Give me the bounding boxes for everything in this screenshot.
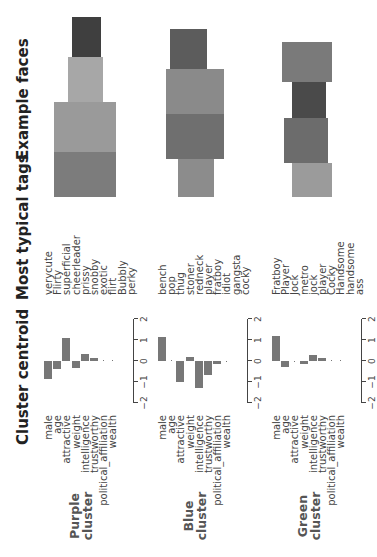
- row-label: Green cluster: [296, 485, 322, 547]
- axis-tick-label: −1: [367, 374, 377, 390]
- tag-item: cocky: [241, 255, 250, 295]
- axis-tick: [134, 381, 138, 382]
- face-image: [284, 118, 328, 163]
- axis-tick-label: 1: [139, 332, 149, 348]
- centroid-bar: [309, 355, 317, 361]
- centroid-chart: maleageattractiveweightintelligencetrust…: [272, 311, 362, 461]
- x-axis: [361, 319, 362, 403]
- centroid-bar: [340, 360, 341, 361]
- centroid-bar: [331, 360, 332, 361]
- axis-tick: [362, 318, 366, 319]
- face-image: [166, 69, 224, 114]
- face-image: [282, 42, 332, 82]
- face-image: [170, 29, 207, 69]
- x-axis: [133, 319, 134, 403]
- tag-list: benchpopthugstonerredneckplayerfratboyid…: [158, 255, 250, 295]
- face-image: [54, 102, 116, 152]
- face-strip: [50, 0, 120, 197]
- tag-item: ass: [355, 241, 364, 295]
- centroid-bar: [90, 358, 98, 361]
- tag-list: verycuteFlirtysuperficialcheerleaderpris…: [44, 235, 136, 295]
- axis-tick: [248, 318, 252, 319]
- centroid-bar: [195, 361, 203, 388]
- axis-tick: [362, 339, 366, 340]
- centroid-bar: [272, 336, 280, 361]
- face-image: [166, 114, 224, 159]
- axis-tick-label: 0: [367, 353, 377, 369]
- row-label-line2: cluster: [195, 485, 208, 547]
- axis-tick-label: 1: [253, 332, 263, 348]
- axis-tick: [362, 402, 366, 403]
- row-label: Purple cluster: [68, 485, 94, 547]
- axis-tick: [134, 318, 138, 319]
- centroid-bar: [176, 361, 184, 382]
- feature-label: wealth: [336, 415, 345, 449]
- centroid-bar: [318, 358, 326, 361]
- axis-tick: [134, 339, 138, 340]
- axis-tick-label: −1: [253, 374, 263, 390]
- centroid-bar: [158, 337, 166, 361]
- axis-tick-label: 2: [253, 311, 263, 327]
- face-image: [68, 57, 103, 102]
- tag-item: perky: [127, 235, 136, 295]
- row-label-line2: cluster: [309, 485, 322, 547]
- centroid-bar: [44, 361, 52, 379]
- centroid-bar: [186, 357, 194, 361]
- centroid-bar: [281, 361, 289, 367]
- axis-tick-label: −2: [139, 395, 149, 411]
- axis-tick: [362, 381, 366, 382]
- axis-tick-label: −2: [367, 395, 377, 411]
- header-most-typical-tags: Most typical tags: [14, 154, 32, 300]
- centroid-bar: [226, 361, 227, 362]
- face-image: [72, 17, 101, 57]
- centroid-bar: [103, 360, 104, 361]
- axis-tick-label: 0: [139, 353, 149, 369]
- axis-tick: [248, 339, 252, 340]
- feature-label: wealth: [222, 415, 231, 449]
- tag-list: FratboyPlayerJockmetrojockplayerCockyHan…: [272, 241, 364, 295]
- centroid-bar: [81, 354, 89, 361]
- cluster-figure: Cluster centroid Most typical tags Examp…: [0, 0, 377, 557]
- centroid-bar: [53, 361, 61, 369]
- centroid-bar: [72, 361, 80, 368]
- axis-tick: [134, 360, 138, 361]
- axis-tick-label: 0: [253, 353, 263, 369]
- axis-tick: [362, 360, 366, 361]
- centroid-bar: [171, 360, 172, 361]
- x-axis: [247, 319, 248, 403]
- row-label-line2: cluster: [81, 485, 94, 547]
- face-image: [54, 152, 116, 197]
- centroid-bar: [213, 361, 221, 364]
- row-label: Blue cluster: [182, 485, 208, 547]
- axis-tick: [248, 381, 252, 382]
- header-cluster-centroid: Cluster centroid: [14, 309, 32, 445]
- axis-tick-label: 2: [367, 311, 377, 327]
- centroid-bar: [112, 360, 113, 361]
- face-image: [292, 163, 332, 197]
- axis-tick: [134, 402, 138, 403]
- centroid-chart: maleageattractiveweightintelligencetrust…: [158, 311, 248, 461]
- centroid-bar: [294, 361, 295, 362]
- axis-tick-label: −1: [139, 374, 149, 390]
- axis-tick-label: 2: [139, 311, 149, 327]
- centroid-chart: maleageattractiveweightintelligencetrust…: [44, 311, 134, 461]
- centroid-bar: [204, 361, 212, 375]
- face-strip: [278, 0, 348, 197]
- face-image: [292, 82, 326, 118]
- axis-tick: [248, 402, 252, 403]
- face-strip: [164, 0, 234, 197]
- centroid-bar: [62, 338, 70, 361]
- axis-tick-label: 1: [367, 332, 377, 348]
- header-example-faces: Example faces: [14, 38, 32, 160]
- feature-label: wealth: [108, 415, 117, 449]
- axis-tick-label: −2: [253, 395, 263, 411]
- face-image: [178, 159, 214, 197]
- centroid-bar: [300, 361, 308, 364]
- axis-tick: [248, 360, 252, 361]
